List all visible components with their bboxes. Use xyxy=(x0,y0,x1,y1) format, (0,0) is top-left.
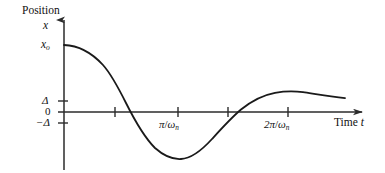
omega-denominator-2: ω xyxy=(278,118,286,130)
omega-subscript-1: n xyxy=(175,124,179,132)
two-pi-numerator: 2π xyxy=(264,118,275,130)
plot-canvas xyxy=(0,0,385,173)
x-tick-label-pi-over-omega-n: π/ωn xyxy=(159,119,179,132)
x-axis-title: Time t xyxy=(334,117,364,129)
y-axis-symbol: x xyxy=(43,20,48,32)
x-axis-title-word: Time xyxy=(334,116,358,128)
omega-subscript-2: n xyxy=(286,124,290,132)
x-tick-label-2pi-over-omega-n: 2π/ωn xyxy=(264,119,289,132)
y-tick-label-neg-delta: −Δ xyxy=(36,117,50,128)
position-vs-time-figure: Position x xo Δ 0 −Δ π/ωn 2π/ωn Time t xyxy=(0,0,385,173)
initial-position-label: xo xyxy=(41,39,50,51)
x-axis-title-symbol: t xyxy=(361,116,364,128)
y-axis-title: Position xyxy=(22,5,60,17)
position-response-curve xyxy=(64,45,345,159)
initial-position-subscript: o xyxy=(46,43,50,52)
